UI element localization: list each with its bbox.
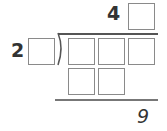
divisor-blank-box[interactable] <box>28 38 55 65</box>
division-bracket <box>54 32 66 68</box>
quotient-digit-1: 4 <box>107 4 120 23</box>
divisor-digit-1: 2 <box>11 41 24 60</box>
dividend-blank-box-2[interactable] <box>98 38 125 65</box>
subtraction-blank-box-2[interactable] <box>98 68 125 95</box>
division-bar <box>58 33 158 35</box>
remainder-digit: 9 <box>137 107 149 126</box>
subtraction-line <box>55 99 158 101</box>
subtraction-blank-box-1[interactable] <box>68 68 95 95</box>
dividend-blank-box-1[interactable] <box>68 38 95 65</box>
quotient-blank-box[interactable] <box>128 3 155 30</box>
dividend-blank-box-3[interactable] <box>128 38 155 65</box>
